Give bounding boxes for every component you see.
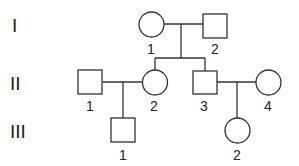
individual-I-1-female [139, 12, 164, 37]
individual-label-III-2: 2 [233, 147, 241, 163]
individual-II-2-female [143, 70, 168, 95]
individual-label-III-1: 1 [119, 147, 127, 163]
individual-label-II-1: 1 [86, 98, 94, 114]
individual-label-I-1: 1 [147, 41, 155, 57]
individual-III-1-male [111, 118, 135, 142]
individual-II-3-male [193, 71, 217, 94]
individual-label-I-2: 2 [211, 41, 219, 57]
individual-III-2-female [225, 118, 250, 143]
generation-label-I: I [12, 15, 17, 36]
individual-II-1-male [78, 70, 102, 94]
individual-I-2-male [203, 14, 227, 38]
individual-label-II-2: 2 [150, 98, 158, 114]
individual-II-4-female [256, 70, 281, 95]
pedigree-chart: I II III 1 2 1 2 3 4 1 2 [0, 0, 299, 166]
generation-label-II: II [10, 73, 21, 94]
individual-label-II-3: 3 [200, 98, 208, 114]
individual-label-II-4: 4 [264, 98, 272, 114]
generation-label-III: III [10, 121, 26, 142]
